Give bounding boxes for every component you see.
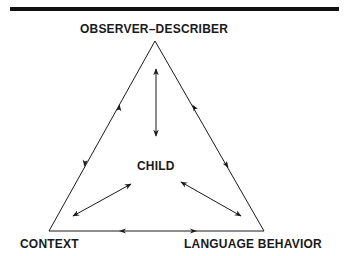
node-observer-describer: OBSERVER–DESCRIBER [80,22,228,36]
node-child: CHILD [137,159,175,173]
node-language-behavior: LANGUAGE BEHAVIOR [184,237,322,251]
arrow-child-language [181,182,241,216]
node-context: CONTEXT [20,237,79,251]
triangle-diagram [0,0,348,256]
arrow-child-context [73,184,131,216]
